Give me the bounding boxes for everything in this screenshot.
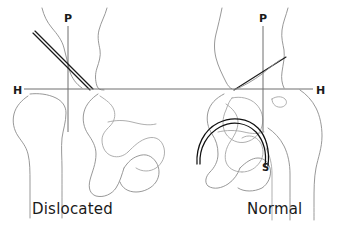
right-hilgenreiner-label: H [316,84,325,97]
right-acetabular-fossa-outline [225,104,242,172]
hip-radiograph-line-drawing: P H Dislocated [0,0,338,225]
left-panel-caption: Dislocated [32,200,113,218]
left-perkins-label: P [64,12,72,25]
shentons-line [197,119,269,166]
left-ischium-outline [120,155,159,192]
left-panel-dislocated: P H Dislocated [13,8,165,218]
right-panel-normal: P H S Normal [197,8,325,220]
right-iliac-border-outline [215,8,233,89]
left-femur-outline [13,96,30,218]
shentons-line-label: S [262,162,269,173]
left-obturator-foramen-outline [128,137,165,171]
right-greater-trochanter-outline [272,97,286,107]
left-pubic-ramus-outline [96,8,108,90]
left-inferior-pubic-ramus-outline [108,121,156,125]
left-acetabulum-outline [83,94,124,197]
right-pubic-ramus-outline [282,8,288,88]
right-panel-caption: Normal [247,200,302,218]
right-acetabular-angle-line [234,57,286,90]
hip-dysplasia-diagram: P H Dislocated [0,0,338,225]
left-acetabular-roof-line [35,31,93,89]
right-obturator-foramen-outline [242,136,263,172]
right-perkins-label: P [259,12,267,25]
right-lateral-ilium-outline [300,90,322,220]
left-acetabular-fossa-outline [100,96,128,157]
left-hilgenreiner-label: H [13,84,22,97]
